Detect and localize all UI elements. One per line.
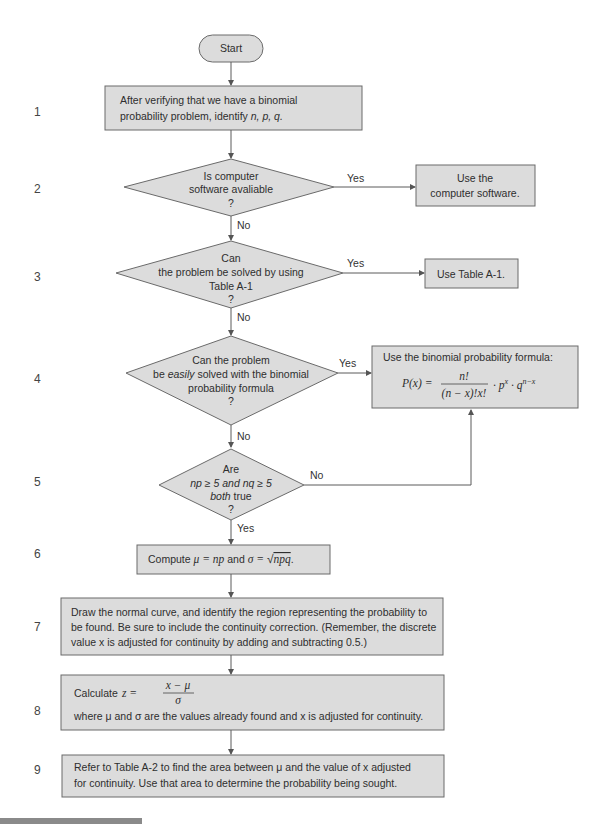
step8-box: Calculate z = x − μ σ where μ and σ are … (61, 675, 444, 730)
step7-box: Draw the normal curve, and identify the … (61, 598, 443, 655)
step1-text-line2: probability problem, identify n, p, q. (120, 110, 283, 122)
step-number-3: 3 (34, 270, 41, 284)
step-number-9: 9 (34, 763, 41, 777)
step5-yes-label: Yes (237, 522, 254, 534)
step7-line1: Draw the normal curve, and identify the … (71, 606, 427, 618)
start-label: Start (220, 42, 242, 54)
step-numbers: 1 2 3 4 5 6 7 8 9 (34, 105, 41, 777)
formula-numerator: n! (459, 370, 469, 382)
step3-yes-action: Use Table A-1. (437, 268, 505, 280)
step3-question-mark: ? (228, 293, 234, 305)
step2-yes-label: Yes (347, 172, 364, 184)
step8-note: where μ and σ are the values already fou… (73, 710, 423, 722)
step4-decision: Can the problem be easily solved with th… (126, 336, 338, 425)
step3-question-line3: Table A-1 (209, 280, 253, 292)
step3-yes-label: Yes (347, 257, 364, 269)
step-number-2: 2 (34, 182, 41, 196)
step1-text-line1: After verifying that we have a binomial (120, 94, 297, 106)
step-number-8: 8 (34, 704, 41, 718)
step9-line1: Refer to Table A-2 to find the area betw… (74, 761, 411, 773)
step7-line3: value x is adjusted for continuity by ad… (71, 636, 367, 648)
step3-yes-box: Use Table A-1. (425, 259, 518, 288)
step-number-6: 6 (34, 547, 41, 561)
formula-denominator: (n − x)!x! (442, 387, 487, 400)
step9-line2: for continuity. Use that area to determi… (74, 777, 397, 789)
step2-question-line2: software avaliable (189, 183, 273, 195)
step9-box: Refer to Table A-2 to find the area betw… (62, 755, 444, 797)
footer-bar (0, 818, 142, 824)
step2-yes-action-line2: computer software. (430, 187, 519, 199)
step3-no-label: No (237, 311, 251, 323)
step2-no-label: No (237, 219, 251, 231)
step8-calculate-label: Calculate (74, 687, 118, 699)
step3-decision: Can the problem be solved by using Table… (116, 241, 343, 308)
step5-no-label: No (310, 469, 324, 481)
step6-box: Compute μ = np and σ = √npq. (137, 545, 330, 574)
step5-question-line2: np ≥ 5 and nq ≥ 5 (190, 477, 272, 489)
step1-box: After verifying that we have a binomial … (105, 86, 362, 130)
step3-question-line1: Can (221, 252, 240, 264)
step2-question-line1: Is computer (204, 170, 259, 182)
step2-yes-box: Use the computer software. (416, 165, 535, 206)
step4-question-line2: be easily solved with the binomial (153, 368, 309, 380)
step4-question-line3: probability formula (188, 382, 274, 394)
step5-question-mark: ? (228, 503, 234, 515)
step5-question-line1: Are (223, 463, 240, 475)
binomial-formula-box: Use the binomial probability formula: P(… (372, 346, 578, 408)
step6-text: Compute μ = np and σ = √npq. (148, 552, 294, 566)
start-terminal: Start (199, 35, 263, 62)
step2-decision: Is computer software avaliable ? (124, 159, 334, 216)
step2-yes-action-line1: Use the (457, 172, 493, 184)
step2-question-mark: ? (228, 197, 234, 209)
step4-question-mark: ? (228, 395, 234, 407)
step-number-4: 4 (34, 372, 41, 386)
z-numerator: x − μ (165, 679, 191, 692)
step4-yes-label: Yes (339, 357, 356, 369)
formula-title: Use the binomial probability formula: (383, 351, 553, 363)
step4-no-label: No (237, 430, 251, 442)
formula-lhs: P(x) = (401, 377, 432, 390)
step-number-5: 5 (34, 475, 41, 489)
step-number-7: 7 (34, 620, 41, 634)
binomial-flowchart: 1 2 3 4 5 6 7 8 9 Start After verifying … (0, 0, 611, 824)
step5-question-line3: both true (210, 490, 252, 502)
step5-decision: Are np ≥ 5 and nq ≥ 5 both true ? (159, 449, 304, 520)
step-number-1: 1 (34, 105, 41, 119)
step7-line2: be found. Be sure to include the continu… (71, 621, 437, 633)
arrow-5-no-to-formula (304, 410, 471, 485)
z-lhs: z = (121, 687, 137, 699)
step3-question-line2: the problem be solved by using (158, 266, 303, 278)
step4-question-line1: Can the problem (192, 354, 270, 366)
